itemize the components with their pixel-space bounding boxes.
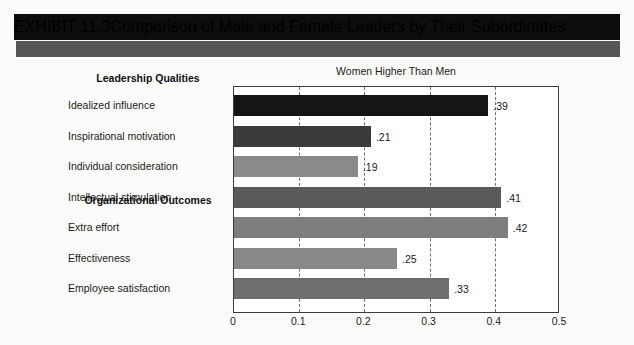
x-tick-label: 0.1 xyxy=(291,315,306,327)
exhibit-number: EXHIBIT 11.3 xyxy=(14,18,110,36)
bar-value-label: .41 xyxy=(506,192,521,204)
exhibit-header-accent-bar xyxy=(16,41,620,57)
x-tick-label: 0.3 xyxy=(421,315,436,327)
category-label: Extra effort xyxy=(68,221,119,233)
bar-value-label: .33 xyxy=(454,283,469,295)
bar xyxy=(234,278,449,299)
x-tick-label: 0 xyxy=(230,315,236,327)
x-axis-tick-labels: 00.10.20.30.40.5 xyxy=(233,315,573,335)
bar xyxy=(234,156,358,177)
bar xyxy=(234,126,371,147)
group-heading: Organizational Outcomes xyxy=(68,194,228,206)
category-label: Individual consideration xyxy=(68,160,178,172)
bar-value-label: .21 xyxy=(376,131,391,143)
chart-figure: Women Higher Than Men Leadership Qualiti… xyxy=(0,57,634,345)
x-tick-label: 0.5 xyxy=(552,315,567,327)
chart-title: Women Higher Than Men xyxy=(306,65,486,77)
group-heading: Leadership Qualities xyxy=(68,72,228,84)
exhibit-header-bar: EXHIBIT 11.3 Comparison of Male and Fema… xyxy=(14,14,620,40)
bar-value-label: .42 xyxy=(513,222,528,234)
bar xyxy=(234,217,508,238)
x-tick-label: 0.4 xyxy=(486,315,501,327)
category-label: Idealized influence xyxy=(68,99,155,111)
bar xyxy=(234,187,501,208)
bar xyxy=(234,95,488,116)
bar xyxy=(234,248,397,269)
category-axis-labels: Leadership QualitiesIdealized influenceI… xyxy=(0,57,233,345)
exhibit-title: Comparison of Male and Female Leaders by… xyxy=(110,18,565,36)
bar-value-label: .19 xyxy=(363,161,378,173)
category-label: Effectiveness xyxy=(68,252,130,264)
category-label: Inspirational motivation xyxy=(68,130,175,142)
plot-area: .39.21.19.41.42.25.33 xyxy=(233,86,559,313)
category-label: Employee satisfaction xyxy=(68,282,170,294)
bar-value-label: .25 xyxy=(402,253,417,265)
bar-value-label: .39 xyxy=(493,100,508,112)
x-tick-label: 0.2 xyxy=(356,315,371,327)
